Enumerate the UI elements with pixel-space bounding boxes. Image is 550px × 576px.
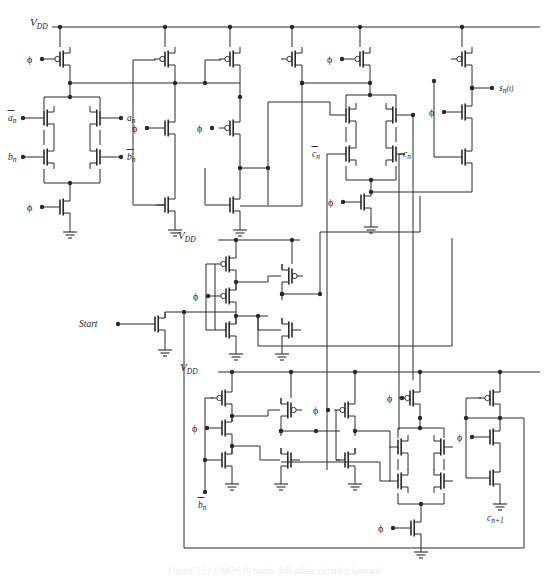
sum-output-buffer: sn(t) ϕ <box>371 79 514 192</box>
carry-output-buffer: ϕ cn+1 <box>184 372 524 548</box>
svg-text:an: an <box>8 113 17 125</box>
svg-text:ϕ: ϕ <box>328 197 333 208</box>
inverter-column-2: ϕ <box>70 60 182 236</box>
pmos-precharge-4 <box>281 27 304 85</box>
svg-text:ϕ: ϕ <box>27 54 32 65</box>
svg-text:ϕ: ϕ <box>457 432 462 443</box>
input-c: cn <box>399 149 411 430</box>
svg-text:bn: bn <box>8 152 17 164</box>
vdd-bottom-label: VDD <box>180 361 198 376</box>
svg-text:ϕ: ϕ <box>378 523 383 534</box>
pmos-precharge-6 <box>451 27 474 90</box>
pmos-precharge-1 <box>49 27 72 85</box>
footer-nmos-1: ϕ <box>27 195 77 238</box>
svg-text:cn: cn <box>403 149 411 161</box>
input-c-bar: cn <box>312 147 338 396</box>
phi-input-1: ϕ <box>27 54 49 65</box>
sum-feed-wire <box>300 81 370 168</box>
input-b: bn <box>8 152 35 164</box>
bottom-inverter-1: bn ϕ <box>192 372 239 512</box>
svg-text:ϕ: ϕ <box>193 291 198 302</box>
input-b-bar: bn <box>109 150 136 165</box>
middle-latch: ϕ <box>193 196 420 360</box>
phi-input-5: ϕ <box>327 54 349 65</box>
carry-out-bridge: ϕ ϕ <box>281 372 453 558</box>
start-nmos: Start <box>79 310 236 478</box>
figure-caption: Figure 3.21 CMOS dynamic full adder circ… <box>0 565 550 576</box>
svg-text:ϕ: ϕ <box>132 123 137 134</box>
pmos-precharge-5 <box>349 27 372 85</box>
inverter-column-3: ϕ <box>175 60 330 236</box>
svg-text:sn(t): sn(t) <box>499 83 514 95</box>
svg-text:ϕ: ϕ <box>327 54 332 65</box>
svg-text:ϕ: ϕ <box>27 202 32 213</box>
pmos-precharge-3 <box>219 27 242 99</box>
bottom-inverter-3: ϕ <box>313 372 390 490</box>
vdd-top-label: VDD <box>30 16 48 31</box>
vdd-middle-rail <box>218 238 300 242</box>
inter-block-routing <box>240 168 452 346</box>
vdd-top-rail <box>52 25 540 29</box>
vdd-bottom-rail <box>218 370 540 374</box>
svg-text:ϕ: ϕ <box>313 405 318 416</box>
svg-text:cn: cn <box>312 149 320 161</box>
svg-text:ϕ: ϕ <box>429 107 434 118</box>
svg-text:ϕ: ϕ <box>197 123 202 134</box>
figure-root: VDD ϕ <box>0 0 550 576</box>
svg-text:ϕ: ϕ <box>387 393 392 404</box>
vertical-feeds <box>327 380 413 470</box>
circuit-schematic: VDD ϕ <box>0 0 550 576</box>
input-a-bar: an <box>8 111 36 126</box>
svg-text:bn: bn <box>198 500 207 512</box>
ab-transmission-bridge <box>35 83 109 195</box>
vdd-middle-label: VDD <box>178 229 196 244</box>
bottom-inverter-2 <box>232 372 318 490</box>
svg-text:Start: Start <box>79 319 98 329</box>
carry-out-label: cn+1 <box>487 513 504 525</box>
svg-text:bn: bn <box>127 152 136 164</box>
pmos-precharge-2 <box>154 27 177 85</box>
svg-text:ϕ: ϕ <box>192 423 197 434</box>
footer-nmos-2: ϕ <box>328 190 378 233</box>
